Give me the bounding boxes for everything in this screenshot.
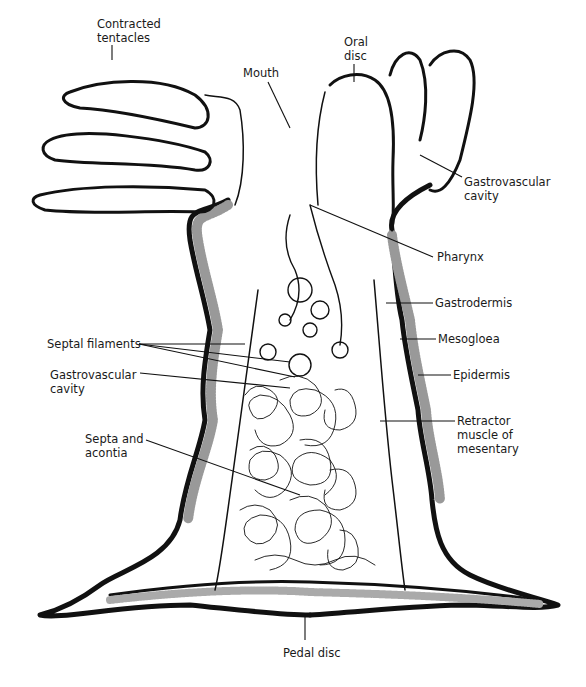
label-gastrovascular-cavity-left: Gastrovascular cavity bbox=[50, 368, 136, 396]
label-mouth: Mouth bbox=[243, 66, 279, 80]
label-septal-filaments: Septal filaments bbox=[47, 337, 141, 351]
label-oral-disc: Oral disc bbox=[344, 35, 368, 63]
label-pedal-disc: Pedal disc bbox=[283, 646, 341, 660]
label-mesogloea: Mesogloea bbox=[438, 332, 500, 346]
label-septa-acontia: Septa and acontia bbox=[85, 432, 144, 460]
label-retractor-muscle: Retractor muscle of mesentary bbox=[457, 414, 519, 456]
label-epidermis: Epidermis bbox=[453, 368, 510, 382]
label-contracted-tentacles: Contracted tentacles bbox=[97, 17, 161, 45]
label-pharynx: Pharynx bbox=[437, 250, 484, 264]
tentacles-left bbox=[33, 81, 243, 212]
tentacles-right bbox=[316, 51, 474, 230]
body-wall-left bbox=[40, 200, 310, 616]
label-gastrovascular-cavity-top: Gastrovascular cavity bbox=[464, 175, 550, 203]
body-wall-right bbox=[310, 185, 558, 615]
label-gastrodermis: Gastrodermis bbox=[435, 296, 512, 310]
